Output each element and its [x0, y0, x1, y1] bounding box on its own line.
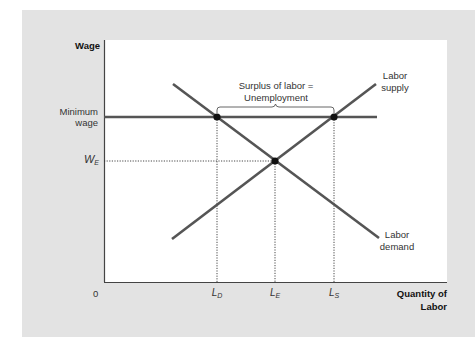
minimum-wage-label-line2: wage — [40, 117, 98, 128]
y-axis-label: Wage — [60, 40, 100, 51]
surplus-annotation-line2: Unemployment — [225, 92, 327, 104]
surplus-annotation: Surplus of labor = Unemployment — [225, 80, 327, 104]
labor-demand-label-line2: demand — [372, 241, 422, 253]
labor-supply-label-line2: supply — [370, 82, 420, 94]
x-axis-label-line1: Quantity of — [380, 287, 447, 300]
point-ld — [213, 113, 220, 120]
point-ls — [330, 113, 337, 120]
x-axis-label-line2: Labor — [380, 300, 447, 313]
minimum-wage-label: Minimum wage — [40, 106, 98, 128]
surplus-bracket — [217, 104, 334, 113]
ls-tick-label: LS — [324, 287, 344, 301]
point-equilibrium — [271, 157, 278, 164]
labor-demand-label: Labor demand — [372, 229, 422, 253]
minimum-wage-label-line1: Minimum — [40, 106, 98, 117]
origin-label: 0 — [93, 288, 98, 299]
labor-demand-label-line1: Labor — [372, 229, 422, 241]
labor-supply-label-line1: Labor — [370, 70, 420, 82]
labor-supply-label: Labor supply — [370, 70, 420, 94]
we-label: WE — [60, 154, 99, 168]
le-tick-label: LE — [265, 287, 285, 301]
x-axis-label: Quantity of Labor — [380, 287, 447, 313]
surplus-annotation-line1: Surplus of labor = — [225, 80, 327, 92]
ld-tick-label: LD — [207, 287, 227, 301]
